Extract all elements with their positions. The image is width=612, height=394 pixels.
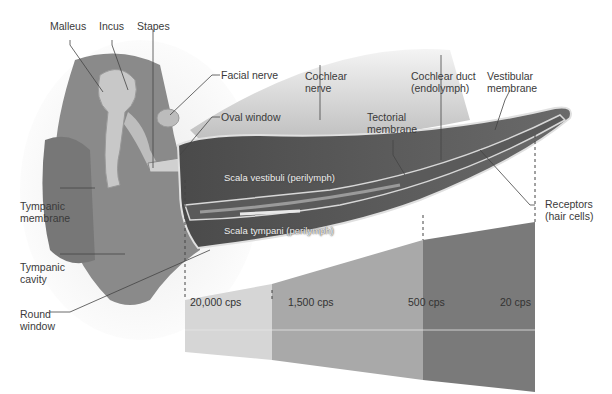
freq-label-20: 20 cps [500,296,531,308]
diagram-graphics [0,0,612,394]
label-line: window [20,320,55,332]
label-line: nerve [305,82,331,94]
label-line: Cochlear duct [411,70,476,82]
label-scala-tympani: Scala tympani (perilymph) [224,225,334,236]
label-line: Tectorial [367,111,406,123]
label-tympanic-cavity: Tympanic cavity [20,261,65,285]
freq-label-500: 500 cps [408,296,445,308]
freq-label-1500: 1,500 cps [288,296,334,308]
label-line: Round [20,308,51,320]
label-line: membrane [487,82,537,94]
label-line: membrane [367,123,417,135]
label-line: cavity [20,273,47,285]
label-line: (hair cells) [545,210,593,222]
label-tectorial-membrane: Tectorial membrane [367,111,417,135]
label-oval-window: Oval window [221,111,281,123]
label-line: Receptors [545,198,593,210]
label-receptors: Receptors (hair cells) [545,198,593,222]
facial-nerve-shape [157,109,179,127]
label-vestibular-membrane: Vestibular membrane [487,70,537,94]
label-malleus: Malleus [50,20,86,32]
label-scala-vestibuli: Scala vestibuli (perilymph) [224,172,335,183]
label-line: Tympanic [20,261,65,273]
label-tympanic-membrane: Tympanic membrane [20,200,70,224]
label-line: Tympanic [20,200,65,212]
label-cochlear-duct: Cochlear duct (endolymph) [411,70,476,94]
label-line: Vestibular [487,70,533,82]
label-incus: Incus [99,20,124,32]
label-stapes: Stapes [137,20,170,32]
label-line: (endolymph) [411,82,469,94]
ear-cochlea-diagram: Malleus Incus Stapes Facial nerve Oval w… [0,0,612,394]
label-round-window: Round window [20,308,55,332]
label-facial-nerve: Facial nerve [221,69,278,81]
label-line: Cochlear [305,70,347,82]
freq-label-20000: 20,000 cps [190,296,241,308]
label-cochlear-nerve: Cochlear nerve [305,70,347,94]
label-line: membrane [20,212,70,224]
band-1500 [272,240,423,380]
